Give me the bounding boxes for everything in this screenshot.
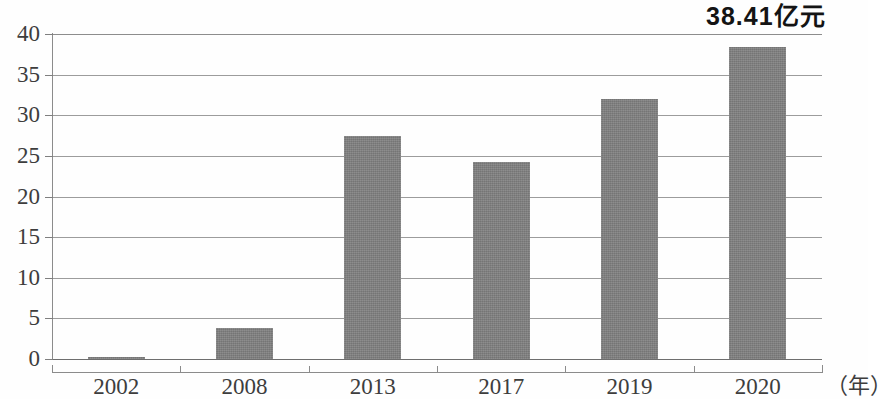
y-axis-tick-label: 20: [0, 185, 40, 208]
gridline: [52, 75, 822, 76]
y-axis-tick-label: 35: [0, 63, 40, 86]
y-axis-tick-label: 5: [0, 306, 40, 329]
gridline: [52, 156, 822, 157]
bar: [216, 328, 273, 359]
x-axis-tick: [180, 366, 181, 373]
x-axis-tick-label: 2013: [309, 375, 437, 399]
x-axis-right-cap: [822, 365, 823, 373]
gridline: [52, 359, 822, 360]
bar: [729, 47, 786, 359]
x-axis-tick: [565, 366, 566, 373]
bar: [473, 162, 530, 359]
y-axis-tick-label: 40: [0, 22, 40, 45]
y-axis-tick-label: 30: [0, 103, 40, 126]
y-axis-tick: [45, 156, 53, 157]
gridline: [52, 197, 822, 198]
y-axis-tick-label: 15: [0, 225, 40, 248]
bar: [601, 99, 658, 359]
y-axis-tick: [45, 34, 53, 35]
x-axis-tick-label: 2020: [694, 375, 822, 399]
y-axis-tick: [45, 75, 53, 76]
x-axis-tick-label: 2017: [437, 375, 565, 399]
y-axis-tick: [45, 278, 53, 279]
bar: [88, 357, 145, 359]
x-axis-tick: [437, 366, 438, 373]
value-annotation-label: 38.41亿元: [706, 0, 826, 33]
y-axis-tick: [45, 318, 53, 319]
x-axis-tick-label: 2008: [181, 375, 309, 399]
gridline: [52, 318, 822, 319]
gridline: [52, 115, 822, 116]
plot-area: [52, 34, 822, 359]
x-axis-left-cap: [52, 365, 53, 373]
gridline: [52, 237, 822, 238]
x-axis-tick-label: 2019: [566, 375, 694, 399]
x-axis-tick: [694, 366, 695, 373]
y-axis-tick-label: 25: [0, 144, 40, 167]
x-axis-tick: [309, 366, 310, 373]
y-axis-tick-label: 10: [0, 266, 40, 289]
y-axis-tick-label: 0: [0, 347, 40, 370]
x-axis-unit-label: （年）: [826, 374, 882, 398]
x-axis-tick-label: 2002: [52, 375, 180, 399]
y-axis-tick: [45, 359, 53, 360]
y-axis-tick: [45, 237, 53, 238]
y-axis-tick: [45, 115, 53, 116]
bar: [344, 136, 401, 359]
gridline: [52, 34, 822, 35]
gridline: [52, 278, 822, 279]
y-axis-tick: [45, 197, 53, 198]
